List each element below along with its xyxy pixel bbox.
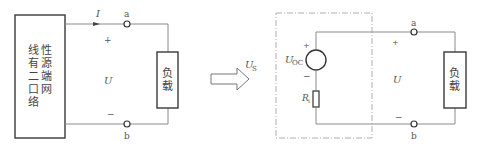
resistor-icon	[313, 91, 319, 107]
voltage-source-icon	[306, 50, 326, 70]
voltage-label: U	[393, 74, 402, 85]
network-label-char: 口	[28, 83, 39, 96]
source-label-sub: OC	[292, 59, 303, 67]
top-wire-to-load	[130, 24, 168, 52]
terminal-b	[411, 121, 417, 127]
network-label-char: 端	[41, 70, 52, 83]
equivalence-arrow: U S	[211, 59, 257, 90]
terminal-a	[124, 21, 130, 27]
network-label-char: 线	[28, 43, 39, 57]
arrow-label-sub: S	[252, 65, 257, 73]
plus-sign: +	[392, 38, 399, 47]
load-label-char: 载	[449, 80, 460, 93]
bottom-wire-to-load	[417, 108, 455, 124]
circuit-diagram: 线 有 二 口 络 性 源 端 网 I a b + U − 负 载	[0, 0, 478, 151]
minus-sign: −	[395, 112, 403, 122]
terminal-b-label: b	[124, 131, 130, 141]
hollow-arrow-icon	[211, 68, 249, 90]
network-label-char: 源	[41, 56, 52, 70]
load-label-char: 负	[449, 66, 460, 80]
source-minus: −	[303, 71, 311, 81]
terminal-a-label: a	[411, 18, 417, 28]
current-arrow-icon	[93, 22, 100, 26]
network-label-char: 网	[41, 83, 52, 96]
minus-sign: −	[107, 109, 115, 119]
terminal-b	[124, 121, 130, 127]
source-plus: +	[303, 41, 310, 50]
terminal-a-label: a	[124, 9, 130, 19]
terminal-b-label: b	[411, 131, 417, 141]
plus-sign: +	[104, 35, 112, 45]
network-label-char: 二	[28, 70, 39, 83]
two-port-network-box	[15, 15, 65, 138]
network-label-char: 性	[41, 43, 52, 57]
current-label: I	[95, 8, 101, 19]
load-label-char: 载	[162, 80, 173, 93]
bottom-wire-to-load	[130, 108, 168, 124]
resistor-label-sub: i	[308, 97, 310, 104]
network-label-char: 有	[28, 56, 39, 70]
voltage-label: U	[104, 75, 113, 86]
network-label-char: 络	[28, 95, 39, 109]
right-circuit: a + − U OC R i b + U − 负 载	[276, 13, 466, 141]
terminal-a	[411, 29, 417, 35]
left-circuit: 线 有 二 口 络 性 源 端 网 I a b + U − 负 载	[15, 8, 178, 141]
load-label-char: 负	[162, 66, 173, 80]
top-wire-to-load	[417, 32, 455, 52]
